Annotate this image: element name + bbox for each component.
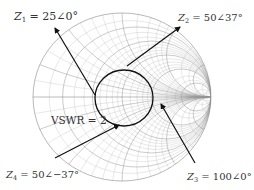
- smith-chart-diagram: Z1 = 25∠0° Z2 = 50∠37° Z3 = 100∠0° Z4 = …: [0, 0, 254, 190]
- z4-arrow: [55, 125, 119, 158]
- z1-arrow: [55, 28, 95, 95]
- z3-arrow: [161, 104, 195, 163]
- smith-chart-grid: [0, 0, 254, 190]
- z4-label: Z4 = 50∠−37°: [5, 169, 79, 182]
- z2-label: Z2 = 50∠37°: [177, 12, 243, 25]
- z1-label: Z1 = 25∠0°: [13, 10, 78, 24]
- z3-label: Z3 = 100∠0°: [186, 171, 252, 184]
- vswr-label: VSWR = 2: [50, 114, 107, 126]
- smith-chart-svg: Z1 = 25∠0° Z2 = 50∠37° Z3 = 100∠0° Z4 = …: [0, 0, 254, 190]
